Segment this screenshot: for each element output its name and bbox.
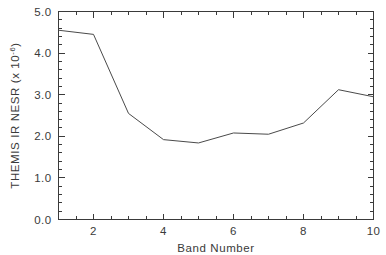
y-tick-label: 4.0 (34, 47, 51, 59)
x-axis-title-text: Band Number (177, 242, 255, 254)
chart-figure: 246810 0.01.02.03.04.05.0 Band Number TH… (0, 0, 386, 255)
x-tick-label: 2 (90, 225, 97, 237)
x-tick-label: 8 (300, 225, 307, 237)
plot-frame (59, 12, 374, 220)
plot-box (59, 12, 374, 220)
y-tick-label: 2.0 (34, 130, 51, 142)
line-chart: 246810 0.01.02.03.04.05.0 Band Number TH… (0, 0, 386, 255)
x-axis-title: Band Number (177, 242, 255, 254)
x-tick-label: 6 (230, 225, 237, 237)
axis-ticks (59, 12, 374, 220)
y-axis-title-main: THEMIS IR NESR (x 10 (9, 55, 21, 189)
y-tick-label: 5.0 (34, 6, 51, 18)
y-axis-title-text: THEMIS IR NESR (x 10-6) (8, 42, 21, 188)
x-tick-label: 10 (367, 225, 381, 237)
y-axis-title-exponent: -6 (8, 47, 17, 55)
y-tick-label: 0.0 (34, 214, 51, 226)
series-line-themis-ir-nesr (59, 30, 374, 143)
y-tick-labels: 0.01.02.03.04.05.0 (34, 6, 51, 226)
y-axis-title-suffix: ) (9, 42, 21, 46)
data-series (59, 30, 374, 143)
y-tick-label: 3.0 (34, 89, 51, 101)
y-axis-title: THEMIS IR NESR (x 10-6) (8, 42, 21, 188)
x-tick-labels: 246810 (90, 225, 380, 237)
y-tick-label: 1.0 (34, 172, 51, 184)
x-tick-label: 4 (160, 225, 167, 237)
